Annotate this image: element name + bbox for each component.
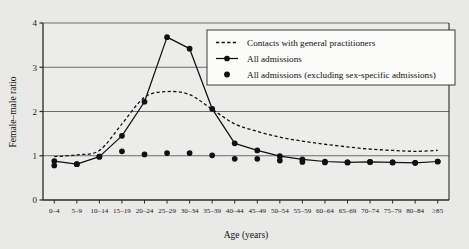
chart-legend: Contacts with general practitionersAll a… [207,30,455,85]
x-tick-label-7: 35–39 [203,207,221,215]
data-point [254,148,260,154]
legend-label-2: All admissions (excluding sex-specific a… [247,70,436,80]
data-point [164,150,170,156]
x-tick-label-9: 45–49 [248,207,266,215]
x-tick-label-3: 15–19 [113,207,131,215]
y-tick-label-1: 1 [33,151,38,161]
data-point [367,159,373,165]
data-point [187,46,193,52]
x-axis-label: Age (years) [224,230,269,241]
data-point [119,133,125,139]
data-point [345,160,351,166]
y-axis-label: Female–male ratio [8,76,18,147]
legend-swatch-dot [224,72,230,78]
data-point [232,156,238,162]
data-point [435,159,441,165]
x-tick-label-5: 25–29 [158,207,176,215]
x-tick-label-12: 60–64 [316,207,334,215]
x-tick-label-16: 80–84 [406,207,424,215]
x-tick-label-2: 10–14 [91,207,109,215]
data-point [254,156,260,162]
data-point [51,163,57,169]
data-point [164,34,170,40]
data-point [300,159,306,165]
x-tick-label-14: 70–74 [361,207,379,215]
y-tick-label-4: 4 [33,18,38,28]
legend-swatch-line-dot [224,56,230,62]
x-tick-label-13: 65–69 [339,207,357,215]
data-point [142,152,148,158]
data-point [119,148,125,154]
x-tick-label-15: 75–79 [384,207,402,215]
data-point [142,99,148,105]
y-tick-label-2: 2 [33,107,38,117]
x-tick-label-17: ≥85 [432,207,443,215]
legend-label-1: All admissions [247,54,302,64]
data-point [322,160,328,166]
x-tick-label-0: 0–4 [49,207,60,215]
data-point [232,141,238,147]
x-tick-label-8: 40–44 [226,207,244,215]
data-point [390,160,396,166]
data-point [277,158,283,164]
legend-label-0: Contacts with general practitioners [247,38,376,48]
female-male-ratio-chart: 01234 0–45–910–1415–1920–2425–2930–3435–… [0,0,469,249]
x-tick-label-10: 50–54 [271,207,289,215]
chart-figure: 01234 0–45–910–1415–1920–2425–2930–3435–… [0,0,469,249]
data-point [209,152,215,158]
data-point [187,150,193,156]
x-tick-label-4: 20–24 [136,207,154,215]
y-tick-label-3: 3 [33,63,38,73]
y-tick-label-0: 0 [33,195,38,205]
data-point [97,154,103,160]
data-point [412,160,418,166]
data-point [209,106,215,112]
x-tick-label-11: 55–59 [294,207,312,215]
x-tick-label-1: 5–9 [72,207,83,215]
data-point [74,161,80,167]
x-tick-label-6: 30–34 [181,207,199,215]
